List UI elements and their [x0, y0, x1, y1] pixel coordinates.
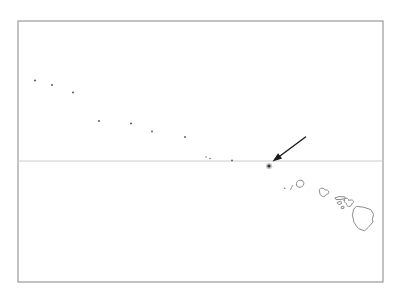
island-lanai	[338, 201, 342, 204]
highlight-dot	[267, 164, 270, 167]
seamount-dot-5	[151, 131, 153, 133]
island-niihau	[291, 186, 293, 190]
seamount-dot-3	[98, 120, 100, 122]
island-kahoolawe	[341, 206, 344, 208]
seamount-dot-7	[205, 156, 206, 157]
map	[0, 0, 398, 296]
seamount-dot-0	[34, 79, 36, 81]
island-oahu	[319, 188, 329, 196]
map-canvas[interactable]	[0, 0, 398, 296]
seamount-dot-6	[184, 136, 186, 138]
seamount-dot-4	[130, 122, 132, 124]
island-kauai	[296, 180, 304, 187]
seamount-dot-1	[51, 84, 53, 86]
island-hawaii	[352, 206, 373, 230]
seamount-dot-9	[231, 160, 233, 162]
island-maui	[344, 198, 353, 206]
seamount-dot-8	[209, 158, 211, 160]
map-frame	[18, 21, 383, 282]
arrow-head	[273, 153, 283, 161]
seamount-dot-10	[284, 188, 285, 189]
seamount-dot-2	[72, 91, 74, 93]
arrow-shaft	[280, 137, 306, 156]
island-molokai	[335, 197, 345, 200]
